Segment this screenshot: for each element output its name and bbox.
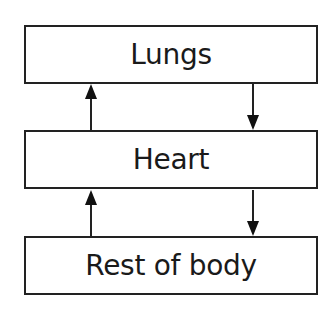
arrow-heart-to-lungs [85,84,97,130]
arrow-body-to-heart [85,190,97,236]
arrow-heart-to-body [247,190,259,236]
node-heart: Heart [24,130,318,189]
node-label-heart: Heart [133,146,209,174]
node-rest-of-body: Rest of body [24,236,318,295]
node-label-rest-of-body: Rest of body [85,252,256,280]
node-label-lungs: Lungs [130,41,211,69]
arrow-lungs-to-heart [247,84,259,130]
node-lungs: Lungs [24,25,318,84]
